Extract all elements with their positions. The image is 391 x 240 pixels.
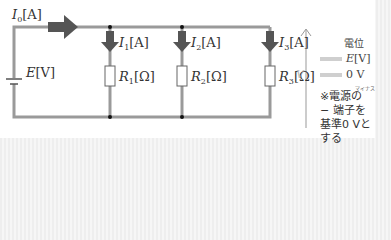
branch-current-label-3: I3[A] (279, 36, 309, 52)
legend-swatch-low (320, 73, 342, 77)
battery-icon (6, 78, 22, 84)
branch-current-label-1: I1[A] (119, 36, 149, 52)
legend-swatch-high (320, 57, 342, 61)
total-current-label: I0[A] (12, 8, 42, 24)
legend-high-row: E[V] (320, 52, 371, 65)
total-current-arrow-icon (48, 15, 78, 39)
branch-current-label-2: I2[A] (191, 36, 221, 52)
reference-note: ※電源の − 端子を基準0 Vとする (320, 90, 374, 146)
resistor-label-1: R1[Ω] (119, 70, 155, 86)
resistor-label-2: R2[Ω] (191, 70, 227, 86)
legend-title: 電位 (344, 35, 364, 50)
potential-axis-label: V (296, 68, 304, 81)
source-voltage-label: E[V] (26, 66, 55, 79)
legend-low-row: 0 V (320, 68, 364, 81)
